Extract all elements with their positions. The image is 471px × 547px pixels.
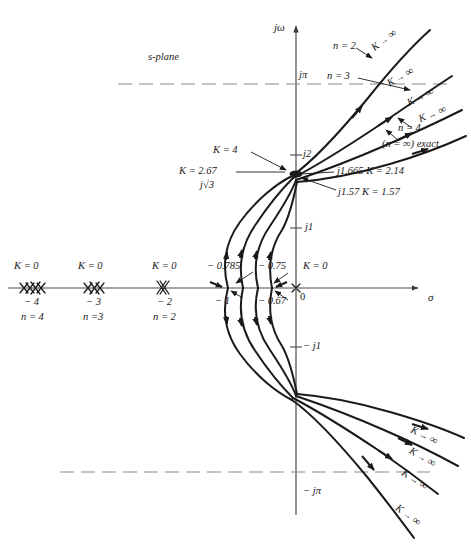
branch-label-n-infinity-exact: (n = ∞) exact <box>382 139 439 150</box>
crossing-label-j-sqrt3: j√3 <box>200 180 214 191</box>
pole-order-label-minus2: n = 2 <box>153 312 176 323</box>
branch-upper-n3 <box>241 178 293 288</box>
pole-value-label-minus2: − 2 <box>157 297 172 308</box>
pole-gain-label-minus2: K = 0 <box>152 261 177 272</box>
imag-axis-label: jω <box>274 22 285 33</box>
crossing-label-j1665: j1.665 K = 2.14 <box>337 166 404 177</box>
branch-lower-n2-asym <box>292 400 414 538</box>
s-plane-label: s-plane <box>148 52 179 63</box>
breakaway-label-075: − 0.75 <box>258 261 286 272</box>
j-pi-upper-label: jπ <box>299 70 307 81</box>
crossing-label-j157: j1.57 K = 1.57 <box>338 187 400 198</box>
branch-label-n3: n = 3 <box>327 71 350 82</box>
breakaway-label-0785: − 0.785 <box>207 261 240 272</box>
imag-axis-crossing-point <box>290 171 303 178</box>
pole-gain-label-minus4: K = 0 <box>14 261 39 272</box>
real-axis-label: σ <box>428 292 433 303</box>
origin-label: 0 <box>300 292 305 303</box>
breakaway-label-067: − 0.67 <box>258 296 286 307</box>
j-pi-lower-label: − jπ <box>303 486 321 497</box>
pole-gain-label-origin: K = 0 <box>303 261 328 272</box>
pole-gain-label-minus3: K = 0 <box>78 261 103 272</box>
pole-order-label-minus3: n =3 <box>83 312 103 323</box>
branch-label-n4: n = 4 <box>398 123 421 134</box>
pole-value-label-minus3: − 3 <box>86 297 101 308</box>
crossing-label-k267: K = 2.67 <box>179 166 217 177</box>
branch-label-n2: n = 2 <box>333 41 356 52</box>
branch-lower-n-inf-asym <box>297 394 464 438</box>
pole-order-label-minus4: n = 4 <box>21 312 44 323</box>
pole-value-label-minus4: − 4 <box>24 297 39 308</box>
root-locus-figure: s-plane jω σ jπ − jπ j2 j1 − j1 0 K = 0 … <box>0 0 471 547</box>
tick-label-j2: j2 <box>303 149 311 160</box>
crossing-label-k4: K = 4 <box>213 145 238 156</box>
tick-label-j1: j1 <box>305 222 313 233</box>
breakaway-label-1: − 1 <box>215 296 230 307</box>
tick-label-neg-j1: − j1 <box>303 341 321 352</box>
